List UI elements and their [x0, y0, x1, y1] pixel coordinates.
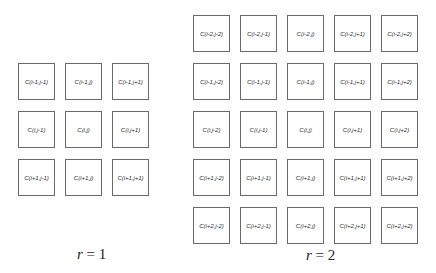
- grid-cell: C(i-1,j-1): [18, 63, 55, 100]
- caption-r1: r = 1: [77, 246, 106, 263]
- grid-cell: C(i-1,j): [65, 63, 102, 100]
- grid-cell: C(i+1,j+2): [381, 159, 418, 196]
- grid-cell: C(i-2,j): [287, 15, 324, 52]
- grid-cell: C(i-1,j-2): [193, 63, 230, 100]
- grid-cell: C(i-1,j+2): [381, 63, 418, 100]
- grid-cell: C(i+1,j-2): [193, 159, 230, 196]
- grid-cell: C(i+2,j-1): [240, 207, 277, 244]
- grid-cell: C(i,j+1): [334, 111, 371, 148]
- grid-cell: C(i+2,j-2): [193, 207, 230, 244]
- grid-cell: C(i,j+1): [112, 111, 149, 148]
- caption-value: = 2: [312, 247, 335, 263]
- grid-cell: C(i,j): [65, 111, 102, 148]
- grid-cell: C(i,j-2): [193, 111, 230, 148]
- grid-cell: C(i,j+2): [381, 111, 418, 148]
- grid-cell: C(i-1,j+1): [112, 63, 149, 100]
- grid-cell: C(i-1,j-1): [240, 63, 277, 100]
- caption-value: = 1: [83, 246, 106, 262]
- grid-cell: C(i-1,j): [287, 63, 324, 100]
- grid-cell: C(i+2,j): [287, 207, 324, 244]
- grid-cell: C(i-2,j-1): [240, 15, 277, 52]
- caption-r2: r = 2: [306, 247, 335, 264]
- grid-cell: C(i,j-1): [18, 111, 55, 148]
- grid-cell: C(i+1,j): [65, 159, 102, 196]
- grid-cell: C(i+1,j): [287, 159, 324, 196]
- grid-cell: C(i+1,j+1): [112, 159, 149, 196]
- grid-cell: C(i,j-1): [240, 111, 277, 148]
- grid-cell: C(i+2,j+2): [381, 207, 418, 244]
- grid-cell: C(i+1,j-1): [240, 159, 277, 196]
- grid-cell: C(i-1,j+1): [334, 63, 371, 100]
- grid-cell: C(i,j): [287, 111, 324, 148]
- grid-cell: C(i+1,j+1): [334, 159, 371, 196]
- grid-cell: C(i-2,j-2): [193, 15, 230, 52]
- grid-cell: C(i+1,j-1): [18, 159, 55, 196]
- grid-cell: C(i+2,j+1): [334, 207, 371, 244]
- grid-cell: C(i-2,j+2): [381, 15, 418, 52]
- grid-cell: C(i-2,j+1): [334, 15, 371, 52]
